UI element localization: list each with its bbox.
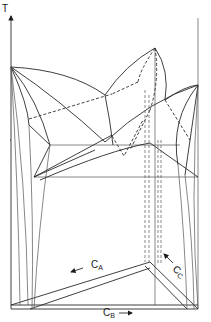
dashed-right (165, 100, 190, 140)
eutectic-plane-right (150, 143, 198, 177)
ca-arrow (71, 268, 83, 272)
temperature-axis-label: T (2, 4, 8, 14)
component-a-sub: A (98, 264, 103, 271)
eutectic-plane-left (34, 150, 95, 177)
liquidus-curve-a1 (11, 67, 105, 95)
liquidus-right-1 (165, 85, 198, 100)
ternary-phase-diagram: T CA CB CC (0, 0, 211, 322)
base-left-edge-2 (30, 268, 150, 309)
dashed-line-back (112, 82, 138, 94)
solidus-right-3 (194, 85, 198, 309)
liquidus-curve-a3 (11, 67, 50, 145)
component-b-label: CB (103, 308, 115, 321)
cc-arrow (164, 254, 173, 263)
liquidus-right-4 (185, 85, 198, 175)
component-a-label: CA (91, 260, 103, 273)
liquidus-right-2 (105, 85, 198, 142)
eutectic-line-low (40, 143, 150, 180)
valley-curve-1 (105, 95, 113, 145)
solidus-right-1 (178, 165, 187, 309)
peak-c-dashed-2 (150, 48, 157, 110)
solidus-left-3 (29, 125, 33, 309)
liquidus-peak-c-left (105, 48, 155, 95)
eutectic-v-dashed (112, 120, 143, 156)
liquidus-dashed-a (29, 94, 112, 119)
component-b-sub: B (110, 312, 115, 319)
